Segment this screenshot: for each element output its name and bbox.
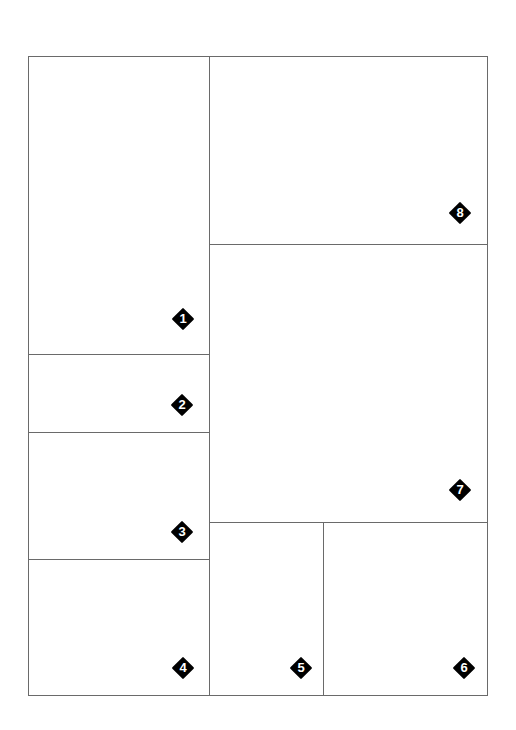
panel-number: 4: [172, 657, 194, 679]
panel-number: 3: [171, 521, 193, 543]
panel-number-badge: 4: [172, 657, 194, 679]
panel-8: [209, 56, 488, 245]
panel-number-badge: 7: [449, 479, 471, 501]
panel-7: [209, 244, 488, 523]
panel-number: 2: [171, 394, 193, 416]
panel-number: 8: [449, 202, 471, 224]
panel-number: 6: [453, 657, 475, 679]
panel-number-badge: 8: [449, 202, 471, 224]
panel-number: 7: [449, 479, 471, 501]
panel-number-badge: 1: [172, 308, 194, 330]
panel-number-badge: 3: [171, 521, 193, 543]
panel-number: 1: [172, 308, 194, 330]
panel-number-badge: 5: [290, 657, 312, 679]
panel-number-badge: 6: [453, 657, 475, 679]
comic-page: 12345678: [0, 0, 516, 730]
panel-number: 5: [290, 657, 312, 679]
panel-number-badge: 2: [171, 394, 193, 416]
